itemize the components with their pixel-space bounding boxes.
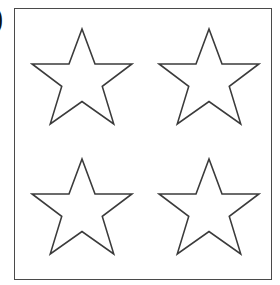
answer-box	[14, 8, 272, 280]
star-shape-top-right[interactable]	[157, 27, 261, 127]
star-grid	[15, 9, 271, 279]
star-shape-bottom-right[interactable]	[157, 157, 261, 257]
star-icon	[159, 159, 259, 254]
worksheet-page: )	[0, 0, 280, 285]
list-item-marker: )	[0, 0, 10, 38]
star-icon	[32, 159, 132, 254]
star-shape-bottom-left[interactable]	[30, 157, 134, 257]
star-icon	[159, 29, 259, 124]
star-icon	[32, 29, 132, 124]
star-shape-top-left[interactable]	[30, 27, 134, 127]
